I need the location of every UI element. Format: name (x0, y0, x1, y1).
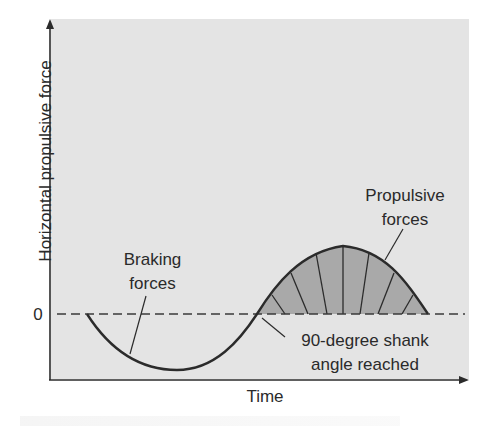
shank-label-line2: angle reached (280, 355, 450, 375)
shank-label-line1: 90-degree shank (280, 331, 450, 351)
braking-label-line1: Braking (100, 250, 205, 270)
zero-tick-label: 0 (30, 305, 46, 325)
chart-figure: Horizontal propulsive force 0 Time Braki… (0, 0, 485, 428)
y-axis-label: Horizontal propulsive force (36, 31, 58, 291)
propulsive-label-line1: Propulsive (350, 186, 460, 206)
braking-label-line2: forces (100, 274, 205, 294)
propulsive-label-line2: forces (350, 210, 460, 230)
x-axis-label: Time (230, 387, 300, 407)
figure-caption-faded (20, 416, 400, 426)
